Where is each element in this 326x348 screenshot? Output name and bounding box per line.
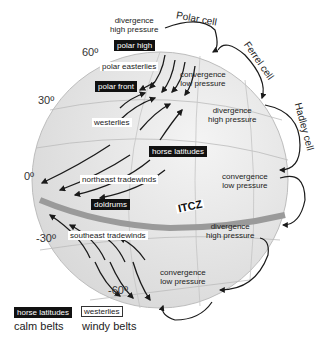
pressure-label-30-high: divergencehigh pressure [208, 106, 256, 124]
polar-easterlies-label: polar easterlies [100, 62, 158, 71]
lat-30: 30º [38, 96, 54, 105]
pressure-label-neg60-low: convergencelow pressure [160, 268, 206, 286]
legend-calm-sample: horse latitudes [14, 307, 72, 318]
westerlies-label: westerlies [92, 118, 132, 127]
lat-0: 0º [24, 172, 34, 181]
pressure-label-polar-high: divergencehigh pressure [110, 16, 158, 34]
pressure-label-neg30-high: divergencehigh pressure [206, 222, 254, 240]
lat-neg60: -60º [108, 286, 128, 295]
horse-latitudes-label: horse latitudes [149, 146, 207, 157]
doldrums-label: doldrums [91, 199, 130, 210]
legend-windy-caption: windy belts [82, 322, 136, 331]
pressure-label-0-low: convergencelow pressure [222, 172, 268, 190]
pressure-label-60-low: convergencelow pressure [180, 70, 226, 88]
polar-front-label: polar front [95, 81, 137, 92]
legend-calm-caption: calm belts [14, 322, 64, 331]
lat-60: 60º [82, 48, 98, 57]
globe-diagram [0, 0, 326, 348]
legend-windy-sample: westerlies [81, 306, 123, 317]
polar-high-label: polar high [114, 40, 155, 51]
northeast-tradewinds-label: northeast tradewinds [80, 175, 158, 184]
southeast-tradewinds-label: southeast tradewinds [68, 231, 148, 240]
lat-neg30: -30º [36, 234, 56, 243]
